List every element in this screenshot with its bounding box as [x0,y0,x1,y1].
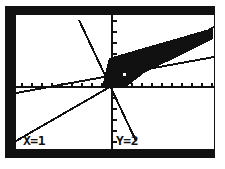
calculator-lcd-screen[interactable]: X=1 Y=2 [16,15,214,149]
line-series-y2 [16,27,214,141]
graph-plot[interactable] [16,15,214,149]
calculator-bezel: X=1 Y=2 [5,6,215,158]
calculator-screenshot: X=1 Y=2 [0,0,225,169]
trace-cursor [123,73,126,76]
trace-x-readout: X=1 [23,134,45,147]
trace-y-readout: Y=2 [116,134,138,147]
